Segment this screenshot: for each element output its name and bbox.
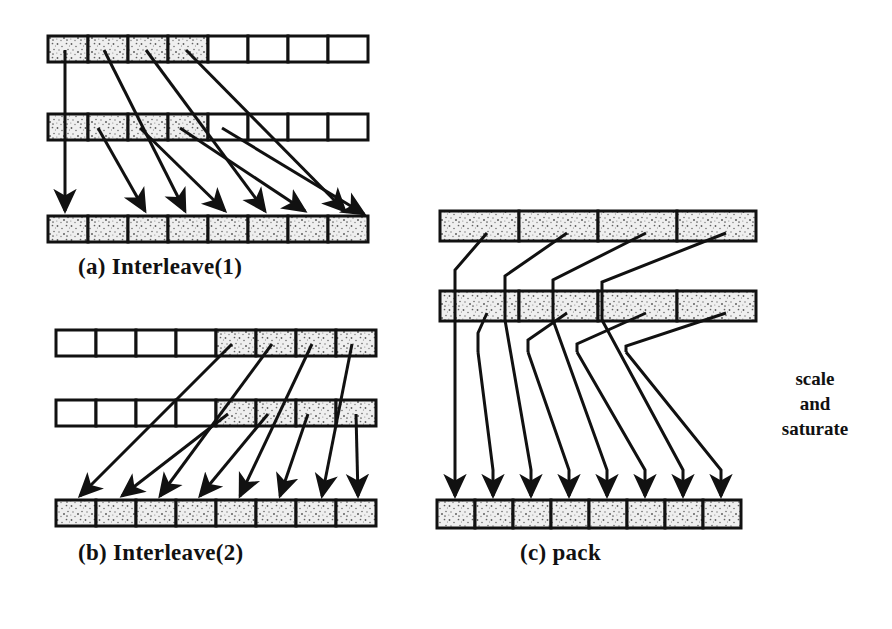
panel-b [56, 330, 376, 526]
figure-diagram [0, 0, 892, 629]
panel-a-source-row-1 [48, 36, 368, 62]
panel-b-destination-row [56, 500, 376, 526]
panel-c-caption: (c) pack [520, 540, 601, 566]
scale-and-saturate-annotation: scale and saturate [744, 366, 886, 441]
panel-b-source-row-1 [56, 330, 376, 356]
annotation-line-saturate: saturate [744, 416, 886, 441]
annotation-line-and: and [744, 391, 886, 416]
panel-a [48, 36, 368, 242]
panel-c-source-row-1 [440, 211, 756, 241]
panel-c-drop-arrows [455, 320, 721, 496]
panel-c-destination-row [437, 500, 741, 528]
panel-b-caption: (b) Interleave(2) [78, 540, 243, 566]
annotation-line-scale: scale [744, 366, 886, 391]
figure-root: (a) Interleave(1) (b) Interleave(2) (c) … [0, 0, 892, 629]
panel-c-source-row-2 [440, 291, 756, 321]
panel-a-caption: (a) Interleave(1) [78, 254, 242, 280]
panel-c [437, 211, 756, 528]
panel-a-destination-row [48, 216, 368, 242]
